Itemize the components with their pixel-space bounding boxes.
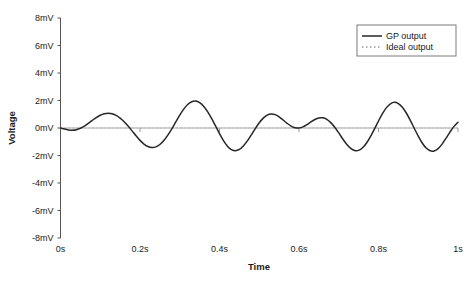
x-tick-label: 0.2s xyxy=(131,244,149,254)
x-tick-label: 0.8s xyxy=(370,244,388,254)
voltage-time-line-chart: Voltage 8mV6mV4mV2mV0mV-2mV-4mV-6mV-8mV … xyxy=(0,0,471,282)
y-axis-title-label: Voltage xyxy=(6,111,17,145)
y-tick-label: 4mV xyxy=(35,68,54,78)
chart-legend[interactable]: GP output Ideal output xyxy=(357,25,456,56)
y-axis: 8mV6mV4mV2mV0mV-2mV-4mV-6mV-8mV xyxy=(32,13,61,243)
y-tick-label: 6mV xyxy=(35,41,54,51)
legend-item-label: GP output xyxy=(386,31,427,41)
y-tick-group: 8mV6mV4mV2mV0mV-2mV-4mV-6mV-8mV xyxy=(32,13,61,243)
y-tick-label: 0mV xyxy=(35,123,54,133)
legend-item-label: Ideal output xyxy=(386,42,434,52)
gp-output-series xyxy=(61,101,459,151)
x-tick-label-group: 0s0.2s0.4s0.6s0.8s1s xyxy=(56,244,464,254)
y-tick-label: 2mV xyxy=(35,96,54,106)
y-tick-label: 8mV xyxy=(35,13,54,23)
y-tick-label: -8mV xyxy=(32,233,54,243)
y-tick-label: -2mV xyxy=(32,151,54,161)
y-tick-label: -4mV xyxy=(32,178,54,188)
x-tick-label: 0.4s xyxy=(211,244,229,254)
x-tick-label: 0.6s xyxy=(290,244,308,254)
x-tick-label: 0s xyxy=(56,244,66,254)
x-tick-label: 1s xyxy=(453,244,463,254)
chart-container: Voltage 8mV6mV4mV2mV0mV-2mV-4mV-6mV-8mV … xyxy=(0,0,471,282)
y-tick-label: -6mV xyxy=(32,206,54,216)
y-axis-title: Voltage xyxy=(6,111,17,145)
x-axis-title-label: Time xyxy=(248,261,270,272)
